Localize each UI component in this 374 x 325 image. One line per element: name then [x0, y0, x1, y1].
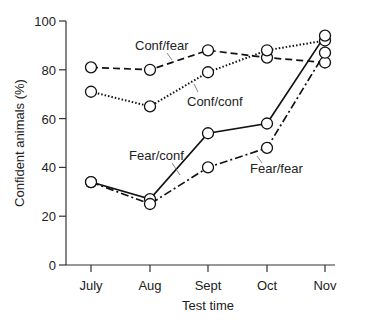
series-annotation: Conf/fear: [135, 38, 189, 53]
y-tick-label: 20: [42, 209, 56, 224]
x-tick-label: Sept: [195, 278, 222, 293]
data-point: [262, 118, 273, 129]
line-chart: 020406080100JulyAugSeptOctNov Conf/fearC…: [0, 0, 374, 325]
x-axis-label: Test time: [182, 298, 234, 313]
data-point: [145, 101, 156, 112]
series-lines: [86, 30, 331, 209]
x-tick-label: Aug: [138, 278, 161, 293]
annotation-leader: [194, 84, 198, 92]
x-tick-label: Nov: [313, 278, 337, 293]
data-point: [86, 62, 97, 73]
data-point: [86, 177, 97, 188]
y-tick-label: 100: [34, 14, 56, 29]
data-point: [320, 47, 331, 58]
x-tick-label: July: [79, 278, 103, 293]
y-tick-label: 0: [49, 258, 56, 273]
y-tick-label: 60: [42, 112, 56, 127]
data-point: [203, 45, 214, 56]
data-point: [262, 142, 273, 153]
data-point: [145, 64, 156, 75]
data-point: [203, 67, 214, 78]
data-point: [320, 30, 331, 41]
data-point: [203, 128, 214, 139]
y-tick-label: 40: [42, 160, 56, 175]
annotation-leader: [167, 53, 172, 60]
series-annotation: Conf/conf: [187, 94, 243, 109]
y-axis-label: Confident animals (%): [12, 79, 27, 207]
data-point: [262, 45, 273, 56]
x-tick-label: Oct: [257, 278, 278, 293]
data-point: [145, 199, 156, 210]
series-annotation: Fear/conf: [129, 148, 184, 163]
data-point: [86, 86, 97, 97]
axes: 020406080100JulyAugSeptOctNov: [34, 14, 337, 293]
y-tick-label: 80: [42, 63, 56, 78]
data-point: [203, 162, 214, 173]
series-annotation: Fear/fear: [250, 161, 303, 176]
